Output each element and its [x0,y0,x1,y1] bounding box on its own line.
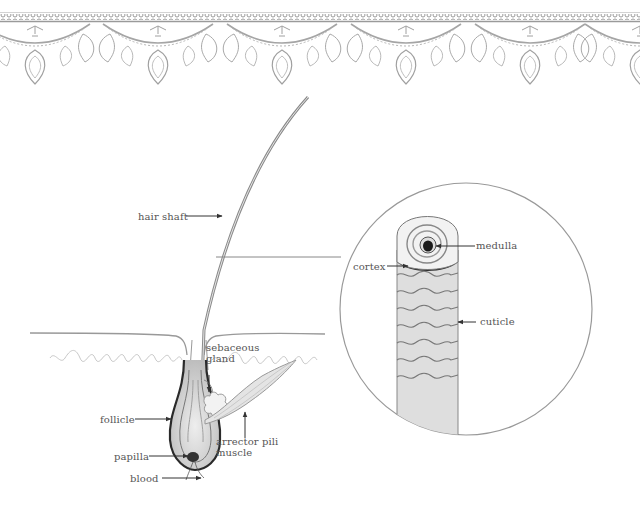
label-arrector-pili-line2: muscle [216,447,252,458]
hair-anatomy-diagram: hair shaft medulla cortex cuticle sebace… [0,0,640,511]
skin-surface-left [30,333,187,355]
label-cuticle: cuticle [480,316,515,327]
label-blood: blood [130,473,159,484]
medulla-core [423,241,433,252]
label-sebaceous-gland-line2: gland [206,353,235,364]
hair-illustration [0,0,640,511]
label-sebaceous-gland-line1: sebaceous [206,342,259,353]
label-cortex: cortex [353,261,386,272]
label-arrector-pili-line1: arrector pili [216,436,278,447]
label-papilla: papilla [114,451,149,462]
magnification-circle [340,183,592,435]
label-medulla: medulla [476,240,517,251]
label-follicle: follicle [100,414,135,425]
label-hair-shaft: hair shaft [138,211,188,222]
